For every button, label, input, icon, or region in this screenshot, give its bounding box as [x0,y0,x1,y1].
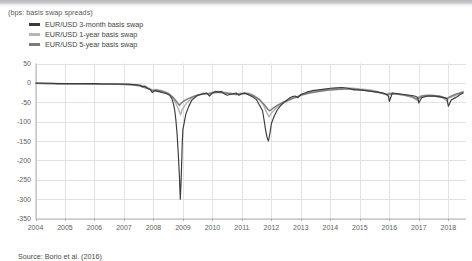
svg-text:-100: -100 [17,118,31,125]
svg-text:2006: 2006 [87,224,103,231]
source-caption: Source: Borio et al. (2016) [18,252,102,261]
axis-lines [36,64,467,222]
x-axis-ticks: 2004200520062007200820092010201120122013… [28,224,456,231]
svg-text:2014: 2014 [323,224,339,231]
plot-area: 500-50-100-150-200-250-300-350 200420052… [0,0,472,261]
svg-text:-300: -300 [17,196,31,203]
svg-text:2012: 2012 [264,224,280,231]
series-line [36,83,464,117]
series-line [36,83,464,111]
svg-text:2017: 2017 [411,224,427,231]
svg-text:2015: 2015 [352,224,368,231]
svg-text:2018: 2018 [441,224,457,231]
svg-text:-350: -350 [17,215,31,222]
svg-text:-50: -50 [21,99,31,106]
svg-text:2009: 2009 [175,224,191,231]
gridlines [36,64,467,220]
svg-text:2016: 2016 [382,224,398,231]
svg-text:2011: 2011 [234,224,249,231]
svg-text:2008: 2008 [146,224,162,231]
svg-text:2007: 2007 [116,224,132,231]
svg-text:50: 50 [23,60,31,67]
chart-figure: (bps: basis swap spreads) EUR/USD 3-mont… [0,0,472,261]
y-axis-ticks: 500-50-100-150-200-250-300-350 [17,60,31,222]
svg-text:2005: 2005 [57,224,73,231]
svg-text:-200: -200 [17,157,31,164]
svg-text:2010: 2010 [205,224,221,231]
svg-text:-150: -150 [17,138,31,145]
svg-text:2013: 2013 [293,224,309,231]
svg-text:-250: -250 [17,176,31,183]
svg-text:2004: 2004 [28,224,44,231]
chart-canvas: 500-50-100-150-200-250-300-350 200420052… [0,0,472,261]
svg-text:0: 0 [27,79,31,86]
